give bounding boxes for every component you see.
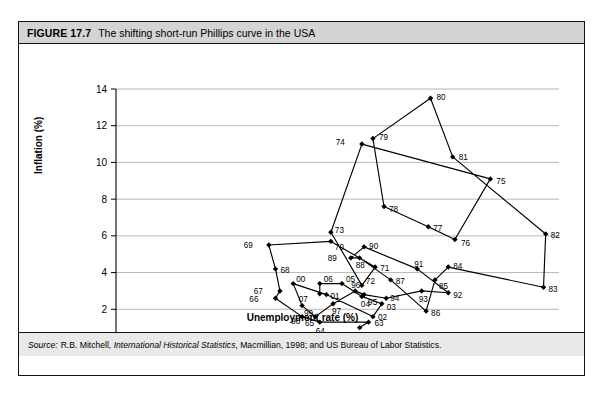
data-point-label: 07 — [299, 295, 309, 304]
y-tick-label: 10 — [96, 157, 108, 168]
data-point-label: 85 — [439, 282, 449, 291]
data-point-label: 89 — [328, 254, 338, 263]
data-point-marker — [419, 288, 424, 293]
data-point-label: 72 — [366, 277, 376, 286]
data-point-label: 87 — [396, 277, 406, 286]
data-point-label: 68 — [280, 266, 290, 275]
data-point-label: 71 — [380, 264, 390, 273]
figure-body: 0246810121401234567891062636465666768697… — [19, 44, 584, 332]
source-italic-title: International Historical Statistics — [114, 340, 236, 350]
data-point-label: 66 — [249, 295, 259, 304]
data-point-label: 93 — [419, 295, 429, 304]
figure-number: FIGURE 17.7 — [27, 27, 91, 39]
phillips-curve-chart: 0246810121401234567891062636465666768697… — [19, 44, 586, 332]
data-point-label: 81 — [459, 153, 469, 162]
data-point-label: 79 — [379, 133, 389, 142]
data-point-label: 77 — [433, 224, 443, 233]
data-point-label: 00 — [296, 275, 306, 284]
x-axis-title: Unemployment rate (%) — [19, 312, 586, 323]
data-point-marker — [291, 281, 296, 286]
figure-header: FIGURE 17.7 The shifting short-run Phill… — [19, 22, 584, 44]
data-point-marker — [381, 204, 386, 209]
source-text-part2: , Macmillian, 1998; and US Bureau of Lab… — [235, 340, 441, 350]
data-point-marker — [317, 281, 322, 286]
data-point-label: 82 — [551, 231, 561, 240]
y-tick-label: 12 — [96, 120, 108, 131]
figure-source-footer: Source: R.B. Mitchell, International His… — [19, 332, 584, 356]
y-tick-label: 8 — [101, 194, 107, 205]
data-point-label: 01 — [330, 292, 340, 301]
data-point-label: 74 — [336, 138, 346, 147]
y-tick-label: 6 — [101, 230, 107, 241]
figure-title: The shifting short-run Phillips curve in… — [98, 27, 315, 39]
data-point-label: 70 — [335, 243, 345, 252]
source-text: R.B. Mitchell, International Historical … — [61, 340, 442, 350]
data-point-marker — [452, 237, 457, 242]
data-point-label: 05 — [346, 275, 356, 284]
data-point-label: 64 — [316, 327, 326, 332]
data-point-marker — [324, 292, 329, 297]
data-point-marker — [541, 285, 546, 290]
data-point-label: 69 — [244, 241, 254, 250]
data-point-label: 78 — [389, 205, 399, 214]
data-point-marker — [273, 266, 278, 271]
data-point-marker — [384, 296, 389, 301]
data-point-label: 04 — [361, 300, 371, 309]
data-point-label: 03 — [387, 303, 397, 312]
data-point-label: 75 — [496, 177, 506, 186]
data-point-marker — [488, 176, 493, 181]
data-point-marker — [277, 288, 282, 293]
data-point-label: 83 — [548, 285, 558, 294]
source-label: Source: — [28, 340, 58, 350]
data-point-marker — [359, 141, 364, 146]
data-point-label: 67 — [254, 287, 264, 296]
data-point-label: 88 — [356, 261, 366, 270]
data-point-label: 92 — [453, 291, 463, 300]
y-tick-label: 14 — [96, 84, 108, 95]
data-point-marker — [328, 239, 333, 244]
data-point-marker — [328, 229, 333, 234]
data-point-label: 80 — [437, 93, 447, 102]
y-tick-label: 4 — [101, 267, 107, 278]
data-point-marker — [266, 242, 271, 247]
data-point-label: 84 — [453, 262, 463, 271]
data-point-label: 76 — [461, 239, 471, 248]
data-point-label: 90 — [369, 242, 379, 251]
phillips-curve-path — [269, 98, 546, 327]
chart-svg: 0246810121401234567891062636465666768697… — [19, 44, 586, 332]
data-point-label: 91 — [414, 260, 424, 269]
data-point-label: 06 — [324, 275, 334, 284]
source-text-part1: R.B. Mitchell, — [61, 340, 114, 350]
data-point-label: 73 — [335, 226, 345, 235]
data-point-marker — [426, 224, 431, 229]
figure-container: FIGURE 17.7 The shifting short-run Phill… — [18, 21, 585, 376]
y-axis-title: Inflation (%) — [33, 117, 44, 174]
